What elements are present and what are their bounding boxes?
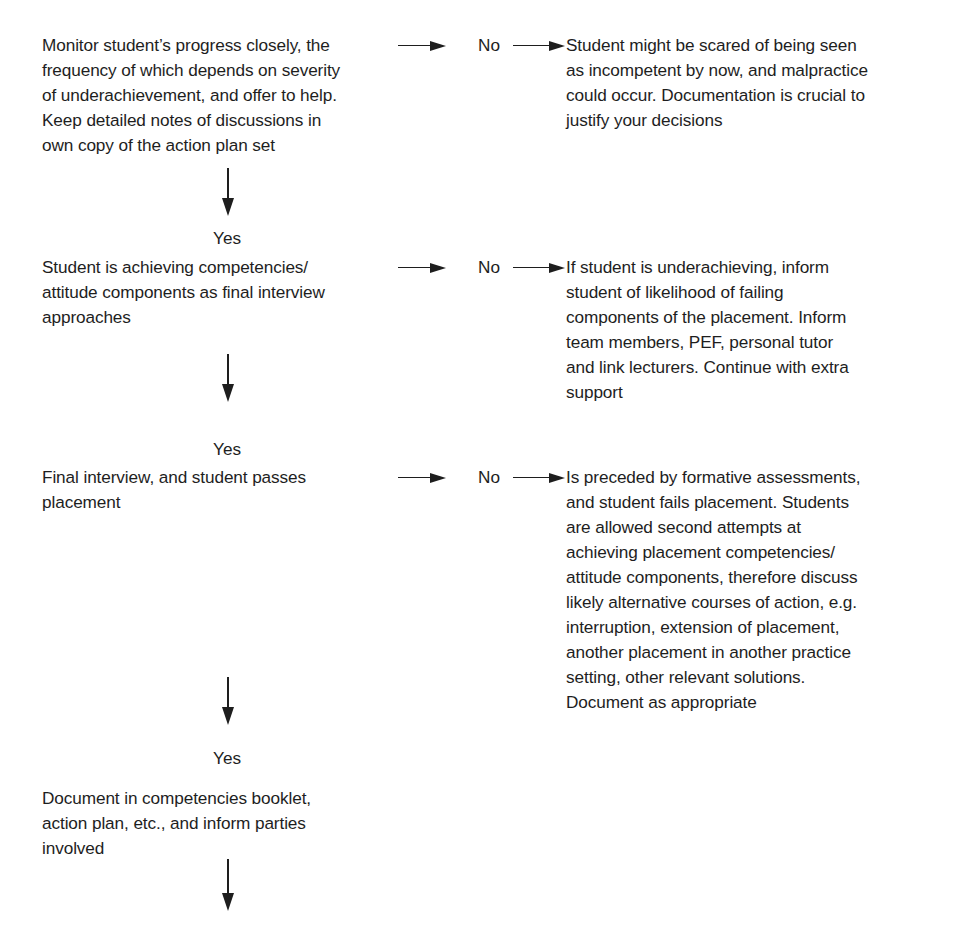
arrow-down-icon <box>222 354 234 402</box>
arrow-down-icon <box>222 168 234 216</box>
flow-step-document-booklet: Document in competencies booklet, action… <box>42 786 311 861</box>
flow-step-achieving-competencies: Student is achieving competencies/ attit… <box>42 255 325 330</box>
flow-step-monitor-progress: Monitor student’s progress closely, the … <box>42 33 340 158</box>
no-label-1: No <box>478 33 500 58</box>
arrow-right-icon <box>398 473 446 483</box>
yes-label-1: Yes <box>213 226 241 251</box>
no-label-3: No <box>478 465 500 490</box>
arrow-right-icon <box>398 263 446 273</box>
yes-label-3: Yes <box>213 746 241 771</box>
arrow-down-icon <box>222 859 234 911</box>
arrow-right-icon <box>513 41 565 51</box>
no-branch-text-fails-placement: Is preceded by formative assessments, an… <box>566 465 860 715</box>
arrow-right-icon <box>513 263 565 273</box>
yes-label-2: Yes <box>213 437 241 462</box>
flow-step-final-interview: Final interview, and student passes plac… <box>42 465 306 515</box>
arrow-down-icon <box>222 677 234 725</box>
no-branch-text-malpractice: Student might be scared of being seen as… <box>566 33 868 133</box>
no-branch-text-underachieving: If student is underachieving, inform stu… <box>566 255 849 405</box>
arrow-right-icon <box>398 41 446 51</box>
arrow-right-icon <box>513 473 565 483</box>
no-label-2: No <box>478 255 500 280</box>
